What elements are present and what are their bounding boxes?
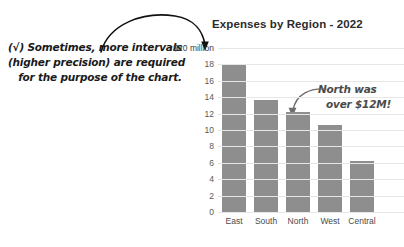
x-axis-tick-label-east: East <box>217 216 251 226</box>
y-axis-tick-label: $20 million <box>173 43 214 53</box>
y-axis-tick-label: 10 <box>205 125 214 135</box>
chart-title: Expenses by Region - 2022 <box>212 18 363 30</box>
precision-note: (√) Sometimes, more intervals (higher pr… <box>8 40 198 85</box>
plot-area: 024681012141618$20 millionEastSouthNorth… <box>218 48 404 212</box>
precision-note-line-3: for the purpose of the chart. <box>8 70 198 85</box>
x-axis-tick-label-central: Central <box>345 216 379 226</box>
precision-note-line-1: (√) Sometimes, more intervals <box>8 40 198 55</box>
y-axis-tick-label: 16 <box>205 76 214 86</box>
y-axis-tick-label: 2 <box>209 191 214 201</box>
precision-note-line-2: (higher precision) are required <box>8 55 198 70</box>
y-axis-tick-label: 12 <box>205 109 214 119</box>
gridline: 2 <box>218 196 404 197</box>
y-axis-tick-label: 0 <box>209 207 214 217</box>
gridline: $20 million <box>218 48 404 49</box>
x-axis-tick-label-west: West <box>313 216 347 226</box>
gridline: 0 <box>218 212 404 213</box>
x-axis-tick-label-north: North <box>281 216 315 226</box>
gridline: 14 <box>218 97 404 98</box>
y-axis-tick-label: 6 <box>209 158 214 168</box>
gridline: 6 <box>218 163 404 164</box>
y-axis-tick-label: 18 <box>205 59 214 69</box>
bar-west[interactable] <box>318 125 342 212</box>
screenshot-root: (√) Sometimes, more intervals (higher pr… <box>0 0 404 247</box>
gridline: 18 <box>218 64 404 65</box>
y-axis-tick-label: 14 <box>205 92 214 102</box>
y-axis-tick-label: 4 <box>209 174 214 184</box>
gridline: 16 <box>218 81 404 82</box>
bar-central[interactable] <box>350 161 374 212</box>
x-axis-tick-label-south: South <box>249 216 283 226</box>
gridline: 8 <box>218 146 404 147</box>
y-axis-tick-label: 8 <box>209 141 214 151</box>
gridline: 10 <box>218 130 404 131</box>
bar-east[interactable] <box>222 64 246 212</box>
bar-chart: Expenses by Region - 2022 02468101214161… <box>185 18 404 247</box>
gridline: 12 <box>218 114 404 115</box>
gridline: 4 <box>218 179 404 180</box>
